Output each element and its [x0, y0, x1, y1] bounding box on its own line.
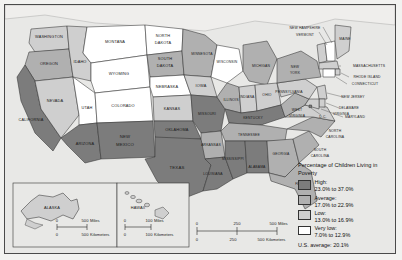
inset-alaska: ALASKA	[13, 183, 117, 247]
state-districtofcolumbia[interactable]	[309, 105, 312, 108]
alaska-miles-unit: Miles	[90, 218, 100, 223]
legend-title: Percentage of Children Living in Poverty	[298, 162, 389, 177]
legend-swatch-high	[298, 180, 311, 190]
legend-label-low: Low:	[315, 210, 327, 216]
us-average-note: U.S. average: 20.1%	[298, 242, 389, 248]
alaska-miles-tick-1: 500	[82, 218, 90, 223]
state-alabama[interactable]	[245, 141, 269, 173]
main-km-unit: Kilometers	[266, 237, 285, 242]
state-newmexico[interactable]	[97, 121, 155, 159]
legend-range-average: 17.0% to 22.9%	[315, 202, 354, 208]
state-newjersey[interactable]	[317, 85, 327, 99]
state-delaware[interactable]	[319, 99, 325, 107]
legend-range-very-low: 7.0% to 12.9%	[315, 232, 351, 238]
state-connecticut[interactable]	[323, 69, 335, 77]
state-arkansas[interactable]	[201, 131, 225, 159]
legend-item-high[interactable]: High: 23.0% to 37.0%	[298, 179, 389, 193]
alaska-km-unit: Kilometers	[90, 232, 109, 237]
state-rhodeisland[interactable]	[335, 69, 340, 75]
legend-item-low[interactable]: Low: 13.0% to 16.9%	[298, 210, 389, 224]
alaska-km-tick-1: 500	[82, 232, 90, 237]
state-kansas[interactable]	[153, 95, 193, 121]
legend-swatch-low	[298, 210, 311, 220]
main-miles-unit: Miles	[278, 221, 288, 226]
state-northdakota[interactable]	[145, 25, 183, 55]
map-frame: WASHINGTON OREGON CALIFORNIA IDAHO NEVAD…	[4, 4, 396, 254]
legend-item-average[interactable]: Average: 17.0% to 22.9%	[298, 195, 389, 209]
hawaii-km-unit: Kilometers	[154, 232, 173, 237]
poverty-choropleth-map: WASHINGTON OREGON CALIFORNIA IDAHO NEVAD…	[0, 0, 402, 260]
map-legend: Percentage of Children Living in Poverty…	[294, 159, 392, 250]
hawaii-miles-tick-1: 100	[146, 218, 154, 223]
state-indiana[interactable]	[239, 85, 257, 113]
legend-range-high: 23.0% to 37.0%	[315, 186, 354, 192]
legend-label-average: Average:	[315, 195, 337, 201]
legend-swatch-very-low	[298, 226, 311, 236]
hawaii-miles-unit: Miles	[154, 218, 164, 223]
legend-range-low: 13.0% to 16.9%	[315, 217, 354, 223]
hawaii-km-tick-1: 100	[146, 232, 154, 237]
state-washington[interactable]	[29, 26, 69, 52]
legend-swatch-average	[298, 195, 311, 205]
main-km-tick-2: 500	[258, 237, 266, 242]
main-km-tick-1: 250	[230, 237, 238, 242]
main-miles-tick-2: 500	[270, 221, 278, 226]
state-southdakota[interactable]	[147, 51, 184, 77]
legend-label-very-low: Very low:	[315, 225, 337, 231]
state-nebraska[interactable]	[150, 75, 191, 97]
legend-label-high: High:	[315, 179, 328, 185]
legend-item-very-low[interactable]: Very low: 7.0% to 12.9%	[298, 225, 389, 239]
main-miles-tick-1: 250	[234, 221, 242, 226]
inset-hawaii: HAWAII	[117, 183, 189, 247]
state-colorado[interactable]	[95, 87, 153, 123]
